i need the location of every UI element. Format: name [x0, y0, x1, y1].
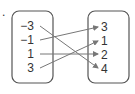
range-value: 2	[101, 48, 108, 62]
arrow-neg1-to-3	[40, 27, 98, 40]
arrow-neg3-to-4	[40, 26, 98, 68]
domain-value: 1	[27, 47, 34, 61]
domain-value: 3	[27, 61, 34, 75]
domain-value: −1	[20, 33, 34, 47]
range-value: 3	[101, 20, 108, 34]
domain-value: −3	[20, 19, 34, 33]
range-value: 1	[101, 34, 108, 48]
mapping-diagram: . −3 −1 1 3 3 1 2 4	[0, 0, 135, 94]
range-box	[88, 11, 129, 83]
range-value: 4	[101, 62, 108, 76]
item-marker: .	[2, 5, 5, 19]
